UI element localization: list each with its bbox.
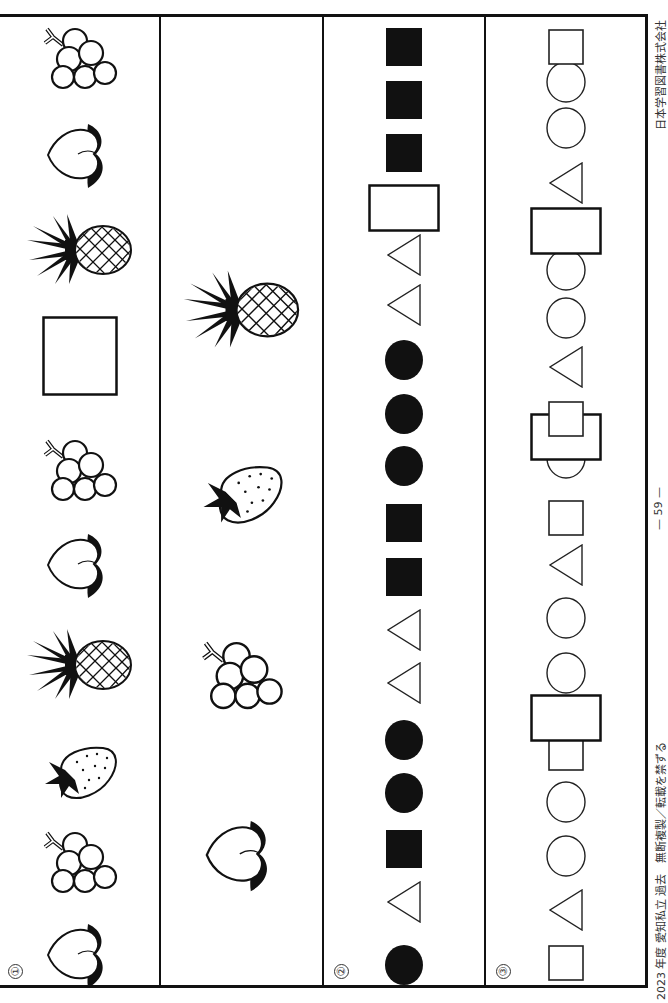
circle-icon [546, 249, 586, 291]
answer-blank-box[interactable] [368, 184, 440, 232]
triangle-icon [548, 889, 584, 931]
pineapple-icon [25, 214, 135, 286]
peach-icon [40, 522, 120, 608]
peach-icon [40, 912, 120, 998]
filled-circle-icon [384, 719, 424, 761]
triangle-icon [386, 609, 422, 651]
page-number: — 59 — [652, 487, 665, 530]
strawberry-icon [196, 459, 286, 532]
triangle-icon [386, 284, 422, 326]
grape-icon [41, 23, 119, 93]
circle-icon [546, 781, 586, 823]
triangle-icon [548, 162, 584, 204]
section-3-label: ③ [496, 964, 511, 979]
triangle-icon [386, 881, 422, 923]
grape-icon [199, 637, 285, 714]
filled-circle-icon [384, 339, 424, 381]
peach-icon [198, 808, 286, 903]
triangle-icon [548, 346, 584, 388]
publisher-name: 日本学習図書株式会社 [652, 20, 668, 130]
circle-icon [546, 297, 586, 339]
filled-square-icon [386, 830, 422, 868]
filled-square-icon [386, 558, 422, 596]
square-icon [548, 29, 584, 65]
filled-square-icon [386, 81, 422, 119]
answer-blank-box[interactable] [530, 207, 602, 255]
section-1-pattern [0, 17, 159, 985]
section-1-label: ① [8, 964, 23, 979]
filled-circle-icon [384, 772, 424, 814]
filled-circle-icon [384, 944, 424, 986]
pineapple-icon [181, 270, 302, 349]
circle-icon [546, 835, 586, 877]
triangle-icon [548, 544, 584, 586]
filled-circle-icon [384, 393, 424, 435]
section-2-pattern [324, 17, 484, 985]
answer-blank-box[interactable] [530, 694, 602, 742]
grape-icon [41, 435, 119, 505]
grape-icon [41, 827, 119, 897]
filled-square-icon [386, 504, 422, 542]
strawberry-icon [39, 740, 121, 806]
answer-blank-box[interactable] [42, 316, 118, 396]
copyright-footer: 2023 年度 愛知私立 過去 無断複製／転載を禁ずる [652, 742, 668, 1000]
circle-icon [546, 652, 586, 694]
circle-icon [546, 597, 586, 639]
filled-circle-icon [384, 445, 424, 487]
pineapple-icon [25, 629, 135, 701]
section-3-pattern [486, 17, 646, 985]
circle-icon [546, 61, 586, 103]
triangle-icon [386, 234, 422, 276]
peach-icon [40, 112, 120, 198]
filled-square-icon [386, 134, 422, 172]
triangle-icon [386, 662, 422, 704]
square-icon [548, 500, 584, 536]
filled-square-icon [386, 28, 422, 66]
circle-icon [546, 107, 586, 149]
square-icon [548, 945, 584, 981]
square-icon [548, 401, 584, 437]
fruit-answer-choices [161, 17, 322, 985]
section-2-label: ② [334, 964, 349, 979]
